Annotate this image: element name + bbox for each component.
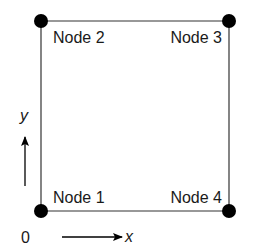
node-4-marker [222,204,236,218]
node-3-label: Node 3 [170,29,222,46]
x-axis-label: x [124,228,134,245]
node-1-marker [34,204,48,218]
node-4-label: Node 4 [170,189,222,206]
node-labels: Node 2 Node 3 Node 1 Node 4 [53,29,222,206]
element-diagram: Node 2 Node 3 Node 1 Node 4 y x 0 [0,0,255,252]
node-2-label: Node 2 [53,29,105,46]
y-axis-label: y [19,107,29,124]
node-1-label: Node 1 [53,189,105,206]
element-edges [41,21,229,211]
origin-label: 0 [21,229,30,246]
coordinate-axes: y x 0 [19,107,134,246]
node-2-marker [34,14,48,28]
node-3-marker [222,14,236,28]
